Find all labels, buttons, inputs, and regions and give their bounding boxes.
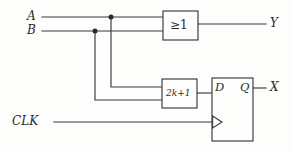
circuit-diagram: A B CLK Y X ≥1 2k+1 D Q — [0, 0, 292, 151]
flipflop-d-label: D — [215, 82, 224, 94]
output-label-y: Y — [270, 17, 278, 29]
input-label-b: B — [27, 24, 36, 36]
circuit-wiring-layer — [0, 0, 292, 151]
or-gate-label: ≥1 — [170, 19, 188, 31]
output-label-x: X — [270, 81, 279, 93]
input-label-clk: CLK — [12, 115, 38, 127]
wire-a-to-parity — [111, 17, 162, 87]
junction-dot-b — [93, 29, 98, 34]
flipflop-q-label: Q — [240, 82, 249, 94]
junction-dot-a — [109, 15, 114, 20]
wire-b-to-parity — [95, 31, 162, 100]
input-label-a: A — [27, 10, 36, 22]
parity-block-label: 2k+1 — [166, 89, 190, 98]
